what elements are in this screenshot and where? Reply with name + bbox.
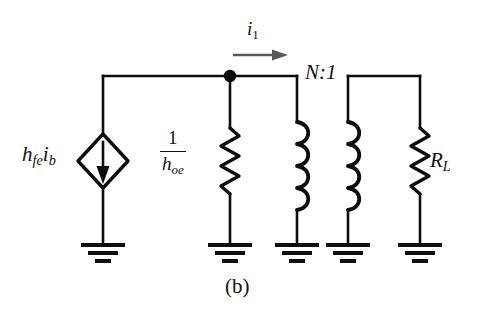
ib-subscript: b [49, 152, 56, 168]
transformer-secondary-coil [348, 76, 359, 245]
hfe-subscript: fe [33, 152, 43, 168]
hoe-base: h [162, 153, 172, 174]
current-source-label: hfeib [22, 142, 56, 169]
turns-ratio-label: N:1 [305, 60, 337, 85]
ground-symbol-hoe [208, 245, 252, 261]
dependent-current-source [78, 76, 128, 245]
output-resistance-label: 1 hoe [160, 128, 186, 176]
figure-caption: (b) [225, 274, 250, 299]
circuit-figure: hfeib 1 hoe i1 N:1 RL (b) [0, 0, 484, 314]
circuit-schematic-svg [0, 0, 484, 314]
i1-subscript: 1 [252, 27, 258, 42]
transformer-primary-coil [297, 76, 308, 245]
load-resistor [411, 76, 429, 245]
current-label: i1 [247, 18, 259, 43]
fraction-bar [160, 151, 186, 152]
fraction-denominator: hoe [160, 153, 186, 177]
load-resistor-label: RL [430, 148, 451, 175]
current-source-arrow-icon [97, 142, 110, 184]
rl-subscript: L [443, 158, 451, 174]
ground-symbol-secondary [326, 245, 370, 261]
resistor-1-over-hoe [221, 76, 239, 245]
ground-symbol-source [81, 245, 125, 261]
ground-symbol-load [398, 245, 442, 261]
rl-base: R [430, 148, 443, 172]
fraction-numerator: 1 [160, 128, 186, 150]
hfe-base: h [22, 142, 33, 166]
ground-symbol-primary [275, 245, 319, 261]
hoe-subscript: oe [172, 161, 184, 176]
current-direction-arrow-icon [233, 50, 288, 61]
